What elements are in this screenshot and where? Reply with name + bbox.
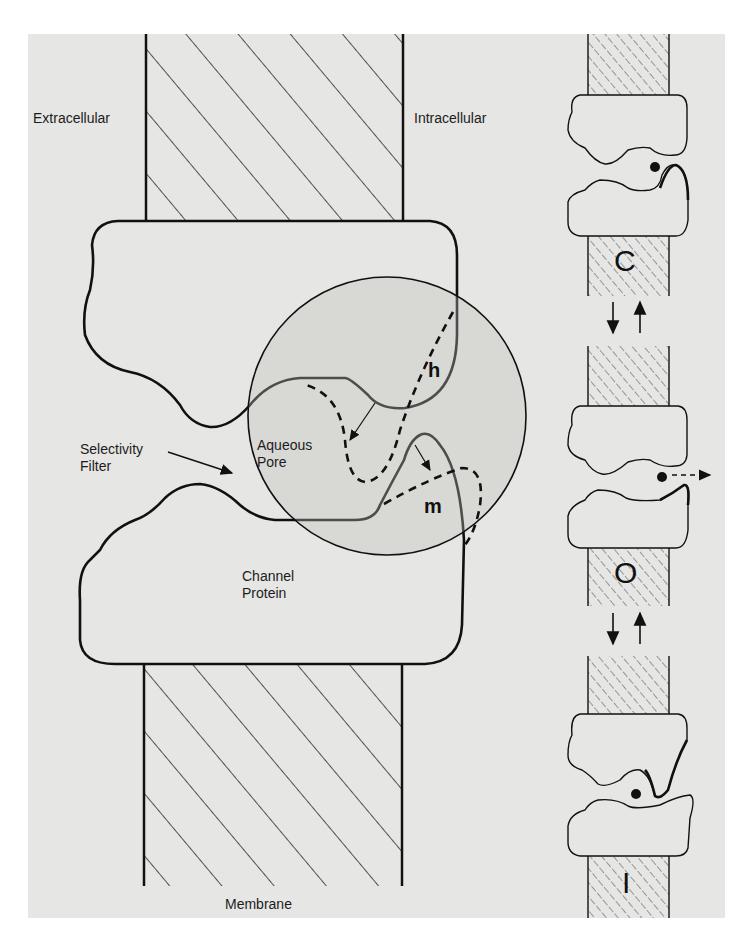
state-inactivated-diagram (568, 656, 693, 918)
label-membrane: Membrane (225, 896, 292, 913)
label-selectivity-filter: Selectivity Filter (80, 441, 143, 475)
label-aqueous-pore: Aqueous Pore (257, 437, 312, 471)
membrane-upper (146, 34, 403, 221)
membrane-lower (144, 664, 403, 886)
aqueous-pore-circle (248, 277, 526, 555)
label-extracellular: Extracellular (33, 110, 110, 127)
selectivity-filter-arrow (168, 452, 232, 473)
state-label-closed: C (614, 244, 636, 278)
label-intracellular: Intracellular (414, 110, 486, 127)
label-gate-m: m (424, 495, 442, 518)
state-open-diagram (568, 346, 710, 606)
label-gate-h: h (428, 359, 440, 382)
state-label-open: O (614, 556, 637, 590)
label-channel-protein: Channel Protein (242, 568, 294, 602)
state-label-inactivated: I (622, 866, 630, 900)
